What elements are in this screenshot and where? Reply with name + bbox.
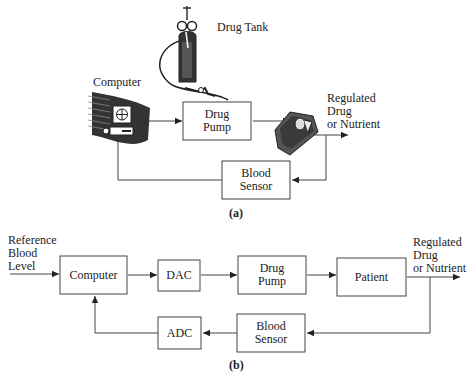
- output-text-3: or Nutrient: [327, 118, 380, 131]
- computer-icon: [88, 92, 150, 144]
- output-label-b: Regulated Drug or Nutrient: [413, 236, 466, 275]
- reference-input-label: Reference Blood Level: [8, 234, 57, 273]
- computer-label: Computer: [93, 76, 141, 89]
- drug-pump-label-b: Drug Pump: [238, 256, 306, 294]
- drug-pump-b-text-2: Pump: [258, 275, 286, 288]
- computer-label-b: Computer: [60, 256, 127, 294]
- caption-b: (b): [229, 358, 244, 373]
- blood-sensor-label-a: Blood Sensor: [222, 161, 290, 199]
- caption-a: (a): [229, 206, 243, 221]
- drug-tank-label: Drug Tank: [217, 21, 268, 34]
- drug-pump-label-a: Drug Pump: [183, 102, 251, 140]
- patient-label: Patient: [337, 258, 406, 296]
- drug-pump-text-2: Pump: [203, 121, 231, 134]
- output-label-a: Regulated Drug or Nutrient: [327, 92, 380, 131]
- blood-sensor-text-2: Sensor: [240, 180, 273, 193]
- drug-tank-icon: [178, 6, 216, 96]
- adc-label: ADC: [158, 317, 201, 349]
- blood-sensor-b-text-2: Sensor: [255, 333, 288, 346]
- patient-icon: [275, 112, 318, 155]
- output-b-text-3: or Nutrient: [413, 262, 466, 275]
- dac-label: DAC: [158, 260, 200, 291]
- blood-sensor-label-b: Blood Sensor: [237, 314, 305, 352]
- input-text-3: Level: [8, 260, 57, 273]
